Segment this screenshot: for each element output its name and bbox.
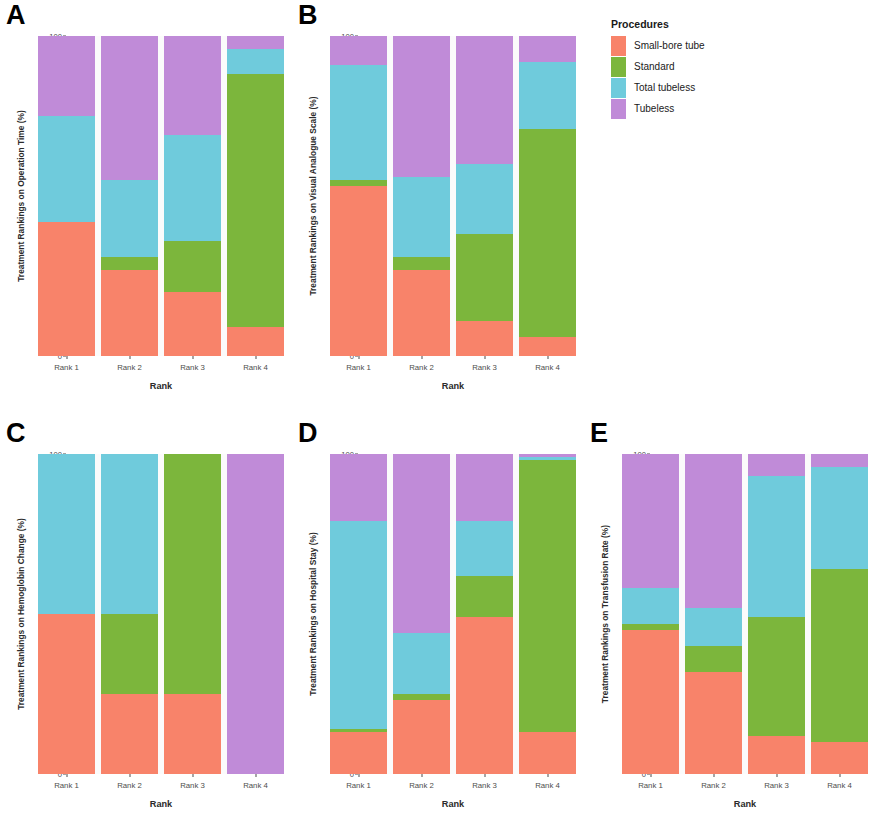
x-tick-mark — [421, 356, 422, 359]
x-tick-mark — [839, 774, 840, 777]
bar-segment — [748, 617, 805, 735]
bar-segment — [519, 129, 576, 337]
x-tick-mark — [421, 774, 422, 777]
stacked-bar[interactable] — [101, 454, 158, 774]
x-tick: Rank 4 — [227, 774, 284, 800]
x-tick-mark — [776, 774, 777, 777]
stacked-bar[interactable] — [393, 36, 450, 356]
bar-segment — [101, 36, 158, 180]
x-tick-label: Rank 4 — [811, 781, 868, 790]
bar-segment — [748, 454, 805, 476]
x-tick: Rank 1 — [330, 356, 387, 382]
x-tick: Rank 3 — [748, 774, 805, 800]
x-tick: Rank 4 — [811, 774, 868, 800]
legend-item[interactable]: Small-bore tube — [611, 35, 861, 56]
stacked-bar[interactable] — [811, 454, 868, 774]
y-axis-title: Treatment Rankings on Transfusion Rate (… — [598, 454, 612, 774]
bar-segment — [622, 454, 679, 588]
stacked-bar[interactable] — [38, 36, 95, 356]
bar-segment — [456, 576, 513, 618]
stacked-bar[interactable] — [38, 454, 95, 774]
bar-segment — [456, 321, 513, 356]
bar-segment — [393, 700, 450, 774]
bar-segment — [393, 454, 450, 633]
stacked-bar[interactable] — [456, 36, 513, 356]
y-axis-title: Treatment Rankings on Hospital Stay (%) — [306, 454, 320, 774]
y-axis-title: Treatment Rankings on Operation Time (%) — [14, 36, 28, 356]
bar-segment — [393, 257, 450, 270]
panel-letter-D: D — [298, 420, 318, 447]
figure-root: ATreatment Rankings on Operation Time (%… — [0, 0, 877, 836]
x-tick-label: Rank 4 — [227, 363, 284, 372]
legend-swatch-2 — [611, 78, 626, 98]
legend-swatch-1 — [611, 57, 626, 77]
x-axis-title: Rank — [622, 799, 868, 809]
bar-segment — [393, 177, 450, 257]
x-tick-mark — [66, 774, 67, 777]
panel-A: ATreatment Rankings on Operation Time (%… — [0, 0, 292, 418]
x-tick: Rank 3 — [164, 356, 221, 382]
x-tick-label: Rank 4 — [227, 781, 284, 790]
stacked-bar[interactable] — [456, 454, 513, 774]
x-tick: Rank 4 — [519, 774, 576, 800]
x-tick-label: Rank 1 — [622, 781, 679, 790]
stacked-bar[interactable] — [227, 454, 284, 774]
stacked-bar[interactable] — [164, 36, 221, 356]
bar-segment — [811, 569, 868, 742]
stacked-bar[interactable] — [227, 36, 284, 356]
plot-area — [38, 36, 284, 356]
stacked-bar[interactable] — [519, 454, 576, 774]
legend-label: Small-bore tube — [634, 40, 705, 51]
y-axis-title-holder: Treatment Rankings on Transfusion Rate (… — [598, 454, 612, 774]
stacked-bar[interactable] — [685, 454, 742, 774]
stacked-bar[interactable] — [393, 454, 450, 774]
bar-segment — [227, 74, 284, 327]
legend-swatch-3 — [611, 99, 626, 119]
x-tick: Rank 4 — [519, 356, 576, 382]
bar-segment — [622, 588, 679, 623]
bar-segment — [227, 49, 284, 75]
bar-segment — [38, 454, 95, 614]
stacked-bar[interactable] — [748, 454, 805, 774]
bar-segment — [456, 234, 513, 320]
plot-area — [38, 454, 284, 774]
x-tick-mark — [129, 356, 130, 359]
legend-label: Standard — [634, 61, 675, 72]
x-axis-title: Rank — [330, 799, 576, 809]
x-axis: Rank 1Rank 2Rank 3Rank 4 — [330, 774, 576, 800]
bar-segment — [393, 633, 450, 694]
y-axis-title-holder: Treatment Rankings on Operation Time (%) — [14, 36, 28, 356]
stacked-bar[interactable] — [164, 454, 221, 774]
legend-item[interactable]: Standard — [611, 56, 861, 77]
plot-area — [622, 454, 868, 774]
x-tick-mark — [713, 774, 714, 777]
x-tick: Rank 4 — [227, 356, 284, 382]
stacked-bar[interactable] — [330, 454, 387, 774]
bar-segment — [164, 135, 221, 241]
x-tick: Rank 1 — [38, 774, 95, 800]
stacked-bar[interactable] — [101, 36, 158, 356]
stacked-bar[interactable] — [622, 454, 679, 774]
x-axis: Rank 1Rank 2Rank 3Rank 4 — [38, 774, 284, 800]
bar-segment — [101, 257, 158, 270]
x-tick-mark — [484, 774, 485, 777]
x-tick-label: Rank 1 — [330, 781, 387, 790]
x-tick-mark — [192, 774, 193, 777]
stacked-bar[interactable] — [330, 36, 387, 356]
bar-segment — [330, 65, 387, 180]
x-tick-label: Rank 2 — [101, 781, 158, 790]
bar-segment — [38, 116, 95, 222]
bar-segment — [330, 521, 387, 729]
x-tick-label: Rank 1 — [38, 781, 95, 790]
panel-C: CTreatment Rankings on Hemoglobin Change… — [0, 418, 292, 836]
legend-item[interactable]: Total tubeless — [611, 77, 861, 98]
x-tick: Rank 2 — [685, 774, 742, 800]
x-tick-mark — [650, 774, 651, 777]
stacked-bar[interactable] — [519, 36, 576, 356]
bar-segment — [101, 454, 158, 614]
x-tick: Rank 3 — [456, 774, 513, 800]
legend-item[interactable]: Tubeless — [611, 98, 861, 119]
bar-segment — [393, 270, 450, 356]
legend-label: Tubeless — [634, 103, 674, 114]
bar-segment — [164, 694, 221, 774]
